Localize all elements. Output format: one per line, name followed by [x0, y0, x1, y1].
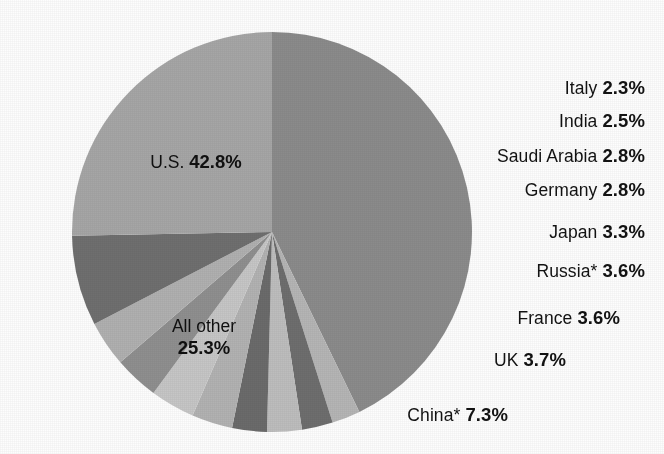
slice-label-allother: All other25.3%: [172, 316, 236, 360]
slice-label-name: All other: [172, 316, 236, 336]
slice-label-name: U.S.: [150, 152, 184, 172]
callout-percent: 3.3%: [602, 221, 645, 242]
slice-callout-japan: Japan 3.3%: [549, 222, 645, 242]
callout-percent: 2.5%: [602, 110, 645, 131]
callout-name: Japan: [549, 222, 597, 242]
callout-name: Germany: [525, 180, 598, 200]
callout-percent: 2.3%: [602, 77, 645, 98]
callout-percent: 7.3%: [465, 404, 508, 425]
callout-name: UK: [494, 350, 519, 370]
slice-label-percent: 25.3%: [178, 337, 230, 358]
callout-name: France: [517, 308, 572, 328]
slice-callout-india: India 2.5%: [559, 111, 645, 131]
callout-percent: 2.8%: [602, 145, 645, 166]
callout-percent: 2.8%: [602, 179, 645, 200]
slice-callout-italy: Italy 2.3%: [565, 78, 645, 98]
callout-name: Italy: [565, 78, 598, 98]
slice-label-percent: 42.8%: [189, 151, 241, 172]
callout-name: Russia*: [536, 261, 597, 281]
pie-chart-figure: U.S. 42.8%All other25.3% Italy 2.3%India…: [0, 0, 664, 454]
slice-label-us: U.S. 42.8%: [150, 151, 241, 174]
slice-callout-saudi: Saudi Arabia 2.8%: [497, 146, 645, 166]
pie-slice-all-other: [72, 32, 272, 236]
slice-callout-russia: Russia* 3.6%: [536, 261, 645, 281]
callout-name: China*: [407, 405, 460, 425]
callout-percent: 3.6%: [577, 307, 620, 328]
callout-percent: 3.6%: [602, 260, 645, 281]
slice-callout-france: France 3.6%: [517, 308, 620, 328]
slice-callout-uk: UK 3.7%: [494, 350, 566, 370]
slice-callout-germany: Germany 2.8%: [525, 180, 645, 200]
callout-percent: 3.7%: [523, 349, 566, 370]
callout-name: India: [559, 111, 597, 131]
callout-name: Saudi Arabia: [497, 146, 597, 166]
slice-callout-china: China* 7.3%: [407, 405, 508, 425]
